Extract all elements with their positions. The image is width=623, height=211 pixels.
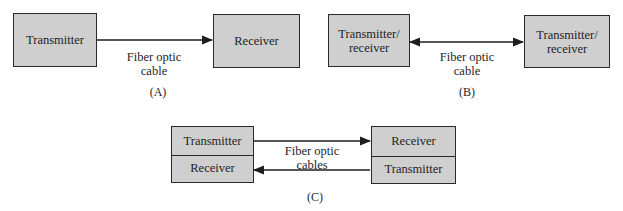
transceiver-left-line2: receiver (349, 41, 389, 55)
left-top-label: Transmitter (184, 134, 242, 149)
caption-c: (C) (295, 190, 335, 205)
cable-label-line1: Fiber optic (427, 50, 507, 64)
right-stack-box: Receiver Transmitter (371, 126, 456, 184)
transmitter-label: Transmitter (26, 33, 84, 47)
cables-label-line1: Fiber optic (272, 144, 352, 158)
receiver-box: Receiver (213, 14, 300, 68)
cable-label-line2: cable (114, 64, 194, 78)
transceiver-right-line2: receiver (547, 42, 587, 56)
cable-label-line2: cable (427, 64, 507, 78)
left-bottom-cell: Receiver (172, 155, 253, 181)
left-bottom-label: Receiver (190, 161, 234, 176)
cables-label-line2: cables (272, 158, 352, 172)
cable-label: Fiber optic cable (114, 50, 194, 78)
transceiver-box-right: Transmitter/ receiver (524, 15, 610, 68)
right-top-cell: Receiver (372, 127, 455, 156)
transceiver-right-line1: Transmitter/ (536, 28, 597, 42)
cable-label-line1: Fiber optic (114, 50, 194, 64)
transceiver-box-left: Transmitter/ receiver (328, 14, 410, 67)
cable-label: Fiber optic cable (427, 50, 507, 78)
right-bottom-label: Transmitter (385, 162, 443, 177)
receiver-label: Receiver (234, 34, 278, 48)
left-stack-box: Transmitter Receiver (171, 126, 254, 183)
cables-label: Fiber optic cables (272, 144, 352, 172)
transmitter-box: Transmitter (13, 13, 97, 67)
right-top-label: Receiver (391, 134, 435, 149)
transceiver-left-line1: Transmitter/ (338, 27, 399, 41)
right-bottom-cell: Transmitter (372, 156, 455, 182)
left-top-cell: Transmitter (172, 127, 253, 155)
caption-a: (A) (138, 85, 178, 100)
caption-b: (B) (447, 85, 487, 100)
